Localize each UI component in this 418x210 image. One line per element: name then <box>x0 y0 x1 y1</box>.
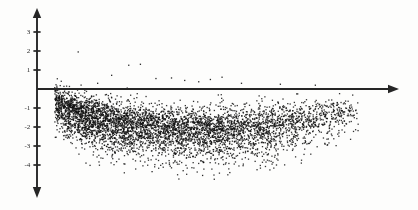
scatter-point-cloud <box>0 0 418 210</box>
y-tick-label-3: 3 <box>8 28 30 36</box>
y-tick-label--3: -3 <box>8 142 30 150</box>
scatter-plot-figure: 321-1-2-3-4 <box>0 0 418 210</box>
y-tick-label--2: -2 <box>8 123 30 131</box>
y-tick-label-1: 1 <box>8 66 30 74</box>
y-tick-label--1: -1 <box>8 104 30 112</box>
y-tick-label-2: 2 <box>8 47 30 55</box>
y-tick-label--4: -4 <box>8 161 30 169</box>
